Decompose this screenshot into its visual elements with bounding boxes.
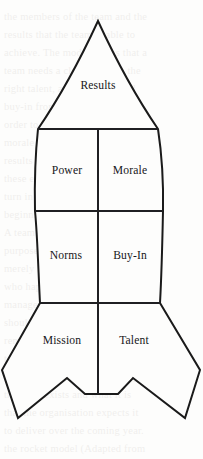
segment-label-results: Results xyxy=(80,79,115,92)
segment-label-talent: Talent xyxy=(119,334,149,347)
segment-label-norms: Norms xyxy=(50,249,82,262)
segment-label-power: Power xyxy=(52,164,82,177)
segment-label-morale: Morale xyxy=(113,164,147,177)
segment-label-buy-in: Buy-In xyxy=(113,249,147,262)
segment-label-mission: Mission xyxy=(43,334,81,347)
